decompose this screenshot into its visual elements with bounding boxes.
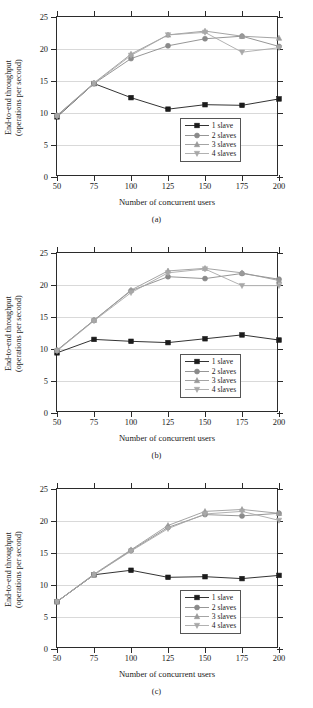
legend-label: 4 slaves	[212, 385, 236, 394]
x-axis-tick	[279, 411, 280, 417]
legend-item[interactable]: 2 slaves	[184, 603, 236, 612]
y-axis-title-c: End-to-end throughput (operations per se…	[2, 486, 24, 654]
data-point	[277, 573, 282, 578]
x-axis-tick-label: 75	[90, 182, 98, 191]
legend-item[interactable]: 2 slaves	[184, 367, 236, 376]
data-point	[128, 290, 133, 295]
series-layer	[57, 253, 279, 413]
x-axis-tick-label: 100	[125, 418, 138, 427]
y-axis-tick-right	[277, 413, 283, 414]
square-marker	[184, 121, 210, 130]
data-point	[203, 574, 208, 579]
data-point	[239, 50, 244, 55]
y-axis-title-line1: End-to-end throughput	[3, 60, 13, 137]
legend-label: 4 slaves	[212, 149, 236, 158]
subplot-caption-b: (b)	[0, 451, 313, 460]
legend-label: 2 slaves	[212, 131, 236, 140]
series-line	[57, 273, 279, 350]
y-axis-tick-label: 0	[44, 173, 48, 182]
plot-area-a: 051015202550751001251501752001 slave2 sl…	[56, 16, 278, 176]
y-axis-tick-label: 20	[40, 517, 48, 526]
y-axis-tick-label: 25	[40, 249, 48, 258]
y-axis-tick-label: 25	[40, 485, 48, 494]
y-axis-tick-label: 15	[40, 549, 48, 558]
legend-item[interactable]: 1 slave	[184, 593, 236, 602]
chart-panel-c: End-to-end throughput (operations per se…	[0, 472, 313, 708]
triangle-down-marker	[184, 385, 210, 394]
x-axis-tick-top	[279, 11, 280, 17]
y-axis-tick-right	[277, 177, 283, 178]
data-point	[129, 95, 134, 100]
chart-legend: 1 slave2 slaves3 slaves4 slaves	[180, 354, 241, 398]
x-axis-tick-label: 175	[236, 182, 249, 191]
legend-item[interactable]: 3 slaves	[184, 612, 236, 621]
chart-legend: 1 slave2 slaves3 slaves4 slaves	[180, 118, 241, 162]
y-axis-title-a: End-to-end throughput (operations per se…	[2, 14, 24, 182]
legend-item[interactable]: 4 slaves	[184, 621, 236, 630]
x-axis-tick-label: 50	[53, 182, 61, 191]
y-axis-tick-label: 25	[40, 13, 48, 22]
x-axis-tick-label: 125	[162, 182, 175, 191]
x-axis-tick-top	[279, 483, 280, 489]
y-axis-title-line2: (operations per second)	[13, 60, 23, 137]
plot-area-c: 051015202550751001251501752001 slave2 sl…	[56, 488, 278, 648]
legend-label: 1 slave	[212, 593, 233, 602]
subplot-caption-c: (c)	[0, 687, 313, 696]
circle-marker	[184, 367, 210, 376]
data-point	[240, 103, 245, 108]
x-axis-tick	[279, 647, 280, 653]
x-axis-tick-label: 125	[162, 418, 175, 427]
figure-page: End-to-end throughput (operations per se…	[0, 0, 313, 708]
y-axis-title-line1: End-to-end throughput	[3, 296, 13, 373]
legend-item[interactable]: 4 slaves	[184, 149, 236, 158]
data-point	[166, 107, 171, 112]
square-marker	[184, 593, 210, 602]
triangle-down-marker	[184, 621, 210, 630]
legend-item[interactable]: 2 slaves	[184, 131, 236, 140]
x-axis-tick-label: 50	[53, 654, 61, 663]
legend-item[interactable]: 3 slaves	[184, 140, 236, 149]
legend-label: 3 slaves	[212, 140, 236, 149]
y-axis-title-line2: (operations per second)	[13, 296, 23, 373]
x-axis-tick-label: 100	[125, 182, 138, 191]
x-axis-tick-top	[279, 247, 280, 253]
legend-label: 1 slave	[212, 121, 233, 130]
data-point	[129, 339, 134, 344]
x-axis-title-c: Number of concurrent users	[56, 669, 278, 679]
series-layer	[57, 17, 279, 177]
x-axis-tick-label: 100	[125, 654, 138, 663]
x-axis-tick-label: 200	[273, 418, 286, 427]
y-axis-tick-label: 20	[40, 45, 48, 54]
triangle-up-marker	[184, 612, 210, 621]
y-axis-tick-label: 10	[40, 581, 48, 590]
series-layer	[57, 489, 279, 649]
legend-label: 3 slaves	[212, 376, 236, 385]
x-axis-tick-label: 200	[273, 182, 286, 191]
y-axis-tick-label: 15	[40, 313, 48, 322]
data-point	[240, 333, 245, 338]
data-point	[203, 336, 208, 341]
data-point	[240, 576, 245, 581]
x-axis-tick	[279, 175, 280, 181]
data-point	[277, 338, 282, 343]
legend-item[interactable]: 1 slave	[184, 121, 236, 130]
y-axis-tick-right	[277, 649, 283, 650]
y-axis-tick-label: 10	[40, 109, 48, 118]
legend-item[interactable]: 4 slaves	[184, 385, 236, 394]
y-axis-title-b: End-to-end throughput (operations per se…	[2, 250, 24, 418]
y-axis-tick-label: 0	[44, 645, 48, 654]
x-axis-tick-label: 125	[162, 654, 175, 663]
x-axis-tick-label: 150	[199, 654, 212, 663]
y-axis-title-line2: (operations per second)	[13, 532, 23, 609]
chart-panel-b: End-to-end throughput (operations per se…	[0, 236, 313, 472]
x-axis-tick-label: 150	[199, 182, 212, 191]
legend-item[interactable]: 1 slave	[184, 357, 236, 366]
data-point	[129, 568, 134, 573]
square-marker	[184, 357, 210, 366]
series-line	[57, 268, 279, 350]
chart-legend: 1 slave2 slaves3 slaves4 slaves	[180, 590, 241, 634]
data-point	[203, 36, 208, 41]
legend-item[interactable]: 3 slaves	[184, 376, 236, 385]
y-axis-tick-label: 15	[40, 77, 48, 86]
y-axis-tick-label: 5	[44, 613, 48, 622]
